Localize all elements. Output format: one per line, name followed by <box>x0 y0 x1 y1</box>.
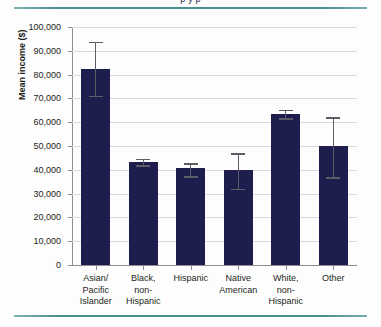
errorbar-cap-upper <box>279 110 293 112</box>
gridline <box>72 170 357 171</box>
category-label-line: Pacific <box>72 285 120 297</box>
x-axis-category-label: NativeAmerican <box>215 273 263 296</box>
category-label-line: Other <box>310 273 358 285</box>
errorbar-line <box>333 117 334 177</box>
errorbar-line <box>190 163 191 176</box>
x-axis-category-label: Other <box>310 273 358 285</box>
x-axis-tick <box>333 266 334 270</box>
x-axis-line <box>72 265 357 266</box>
bottom-rule <box>14 315 367 317</box>
y-axis-tick-label: 90,000 <box>33 46 61 56</box>
y-axis-title: Mean income ($) <box>17 29 27 100</box>
clipped-title-text: p y p <box>0 0 381 4</box>
x-axis-category-label: Black,non-Hispanic <box>120 273 168 308</box>
y-axis-tick: 80,000 <box>68 75 72 76</box>
gridline <box>72 241 357 242</box>
y-axis-tick-label: 70,000 <box>33 93 61 103</box>
category-label-line: Native <box>215 273 263 285</box>
errorbar-cap-upper <box>89 42 103 44</box>
y-axis-tick: 30,000 <box>68 194 72 195</box>
bar <box>271 114 300 265</box>
gridline <box>72 194 357 195</box>
bar <box>176 168 205 265</box>
y-axis-tick: 100,000 <box>68 27 72 28</box>
x-axis-tick <box>143 266 144 270</box>
errorbar-cap-upper <box>136 159 150 161</box>
x-axis-category-label: Hispanic <box>167 273 215 285</box>
y-axis-tick: 90,000 <box>68 51 72 52</box>
y-axis-tick: 40,000 <box>68 170 72 171</box>
category-label-line: Hispanic <box>167 273 215 285</box>
x-axis-tick <box>191 266 192 270</box>
gridline <box>72 51 357 52</box>
category-label-line: Islander <box>72 296 120 308</box>
gridline <box>72 146 357 147</box>
category-label-line: non- <box>120 285 168 297</box>
gridline <box>72 75 357 76</box>
errorbar-cap-lower <box>136 165 150 167</box>
gridline <box>72 98 357 99</box>
category-label-line: White, <box>262 273 310 285</box>
y-axis-tick-label: 0 <box>56 260 61 270</box>
x-axis-category-label: White,non-Hispanic <box>262 273 310 308</box>
y-axis-tick-label: 20,000 <box>33 212 61 222</box>
errorbar-cap-upper <box>326 117 340 119</box>
bar <box>81 69 110 265</box>
category-label-line: American <box>215 285 263 297</box>
y-axis-tick: 0 <box>68 265 72 266</box>
x-axis-tick <box>238 266 239 270</box>
y-axis-tick: 70,000 <box>68 98 72 99</box>
y-axis-tick-label: 100,000 <box>28 22 61 32</box>
errorbar-cap-lower <box>326 177 340 179</box>
y-axis-tick: 60,000 <box>68 122 72 123</box>
x-axis-tick <box>96 266 97 270</box>
category-label-line: Hispanic <box>262 296 310 308</box>
category-label-line: Hispanic <box>120 296 168 308</box>
y-axis-tick-label: 60,000 <box>33 117 61 127</box>
y-axis-tick: 10,000 <box>68 241 72 242</box>
x-axis-category-label: Asian/PacificIslander <box>72 273 120 308</box>
category-label-line: Asian/ <box>72 273 120 285</box>
top-rule <box>14 7 367 9</box>
errorbar-cap-upper <box>231 153 245 155</box>
errorbar-cap-lower <box>231 189 245 191</box>
y-axis-tick-label: 30,000 <box>33 189 61 199</box>
errorbar-cap-upper <box>184 163 198 165</box>
plot-area: 010,00020,00030,00040,00050,00060,00070,… <box>72 27 357 265</box>
gridline <box>72 217 357 218</box>
y-axis-tick: 50,000 <box>68 146 72 147</box>
bar <box>129 162 158 265</box>
gridline <box>72 122 357 123</box>
errorbar-cap-lower <box>184 176 198 178</box>
errorbar-line <box>238 153 239 189</box>
category-label-line: non- <box>262 285 310 297</box>
figure-container: p y p Mean income ($) 010,00020,00030,00… <box>0 0 381 327</box>
errorbar-line <box>95 42 96 96</box>
y-axis-tick-label: 80,000 <box>33 70 61 80</box>
category-label-line: Black, <box>120 273 168 285</box>
y-axis-tick-label: 40,000 <box>33 165 61 175</box>
y-axis-tick-label: 50,000 <box>33 141 61 151</box>
errorbar-cap-lower <box>89 96 103 98</box>
y-axis-tick-label: 10,000 <box>33 236 61 246</box>
y-axis-tick: 20,000 <box>68 217 72 218</box>
x-axis-tick <box>286 266 287 270</box>
gridline <box>72 27 357 28</box>
errorbar-cap-lower <box>279 118 293 120</box>
